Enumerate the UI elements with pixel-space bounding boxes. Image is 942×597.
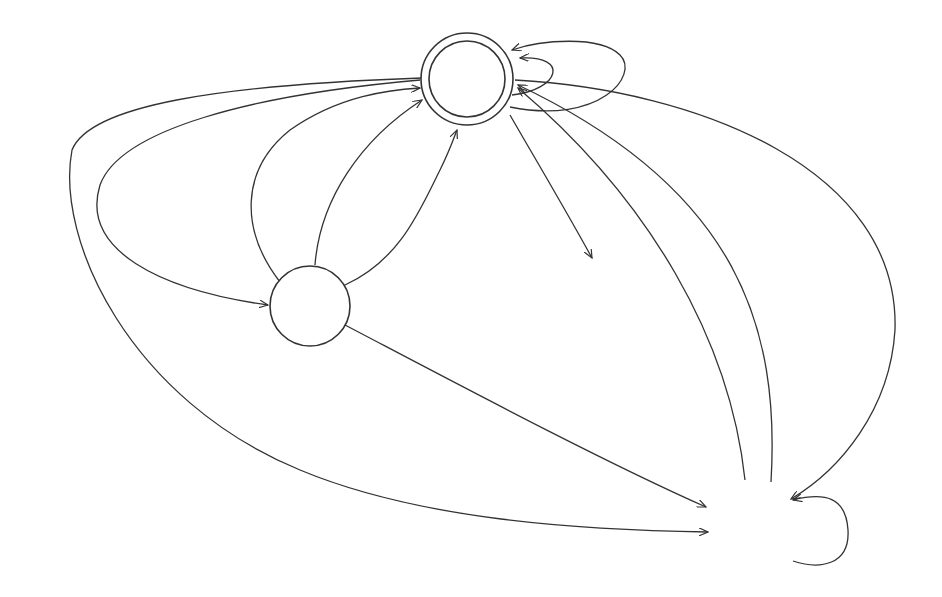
- state-diagram: [0, 0, 942, 597]
- node-1: [270, 266, 350, 346]
- edge-0-0-inner: [512, 58, 553, 95]
- node-0: [421, 33, 513, 125]
- edge-0-1: [97, 80, 420, 305]
- edge-2-0-parenx: [518, 85, 772, 482]
- edge-0-0-outer: [510, 41, 625, 111]
- edge-0-2-x: [515, 80, 895, 499]
- edge-1-0-xparen: [315, 100, 422, 265]
- edge-1-2: [345, 325, 706, 507]
- edge-1-0-x: [251, 88, 420, 282]
- edge-2-2: [793, 497, 848, 565]
- edge-0-3: [510, 115, 592, 258]
- edge-0-2-outer: [70, 78, 708, 532]
- edge-2-0-xparen: [518, 88, 745, 480]
